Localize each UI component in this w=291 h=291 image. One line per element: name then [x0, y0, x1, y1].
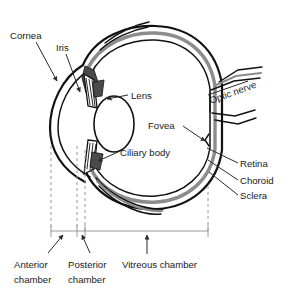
chamber-anterior-line1: Anterior — [14, 259, 48, 270]
leader-sclera — [209, 172, 238, 195]
leader-fovea — [183, 126, 205, 141]
label-fovea: Fovea — [148, 120, 175, 131]
arrow-anterior-chamber — [48, 235, 63, 253]
chamber-posterior-line1: Posterior — [68, 259, 107, 270]
chamber-vitreous-line1: Vitreous chamber — [122, 259, 198, 270]
chamber-label-anterior: Anterior chamber — [14, 259, 52, 285]
label-retina: Retina — [240, 158, 268, 169]
chamber-scale-bar — [51, 225, 208, 237]
chamber-anterior-line2: chamber — [14, 274, 52, 285]
label-cornea: Cornea — [10, 30, 42, 41]
eye-anatomy-diagram: Cornea Iris Lens Fovea Ciliary body Reti… — [0, 0, 291, 291]
label-iris: Iris — [56, 42, 69, 53]
ciliary-body-lower — [90, 152, 103, 170]
fovea-notch — [205, 134, 209, 146]
label-sclera: Sclera — [240, 190, 268, 201]
ciliary-body-upper — [93, 80, 104, 97]
label-ciliary-body: Ciliary body — [120, 147, 170, 158]
leader-iris — [66, 54, 80, 92]
chamber-label-vitreous: Vitreous chamber — [122, 259, 198, 270]
eye-diagram-canvas: Cornea Iris Lens Fovea Ciliary body Reti… — [0, 0, 291, 291]
arrow-posterior-chamber — [82, 235, 90, 253]
label-lens: Lens — [131, 90, 152, 101]
chamber-posterior-line2: chamber — [68, 274, 106, 285]
label-choroid: Choroid — [240, 175, 274, 186]
chamber-label-posterior: Posterior chamber — [68, 259, 107, 285]
lens — [94, 96, 134, 152]
leader-cornea — [36, 42, 57, 81]
